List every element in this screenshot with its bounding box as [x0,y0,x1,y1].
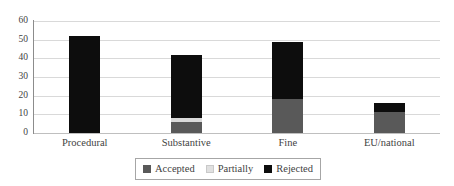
bar-segment-accepted [171,122,202,133]
bar-segment-rejected [171,55,202,118]
gridline [34,21,440,22]
x-axis-label-eu-national: EU/national [329,136,449,150]
bar-substantive [171,55,202,133]
bar-segment-accepted [272,99,303,133]
y-axis-tick-label: 10 [0,109,28,119]
y-axis-tick-label: 20 [0,91,28,101]
bar-segment-rejected [69,36,100,133]
bar-procedural [69,36,100,133]
legend-item-rejected[interactable]: Rejected [264,163,313,174]
bar-fine [272,42,303,133]
y-axis-tick-label: 30 [0,72,28,82]
axis-baseline [34,133,440,134]
legend-label: Accepted [155,163,195,174]
y-axis-tick-label: 60 [0,16,28,26]
legend-item-accepted[interactable]: Accepted [143,163,195,174]
legend-label: Partially [218,163,254,174]
plot-area [34,21,440,133]
y-axis-tick-labels: 0102030405060 [0,0,34,186]
x-axis-labels: ProceduralSubstantiveFineEU/national [34,136,440,154]
legend-label: Rejected [276,163,313,174]
bar-segment-rejected [374,103,405,112]
bar-segment-accepted [374,112,405,133]
stacked-bar-chart: 0102030405060 ProceduralSubstantiveFineE… [0,0,454,186]
y-axis-tick-label: 50 [0,35,28,45]
legend-swatch-partially-icon [206,165,214,173]
legend-swatch-rejected-icon [264,165,272,173]
bar-eu-national [374,103,405,133]
legend-item-partially[interactable]: Partially [206,163,254,174]
chart-legend: AcceptedPartiallyRejected [135,158,321,180]
y-axis-tick-label: 40 [0,53,28,63]
legend-swatch-accepted-icon [143,165,151,173]
bar-segment-rejected [272,42,303,100]
